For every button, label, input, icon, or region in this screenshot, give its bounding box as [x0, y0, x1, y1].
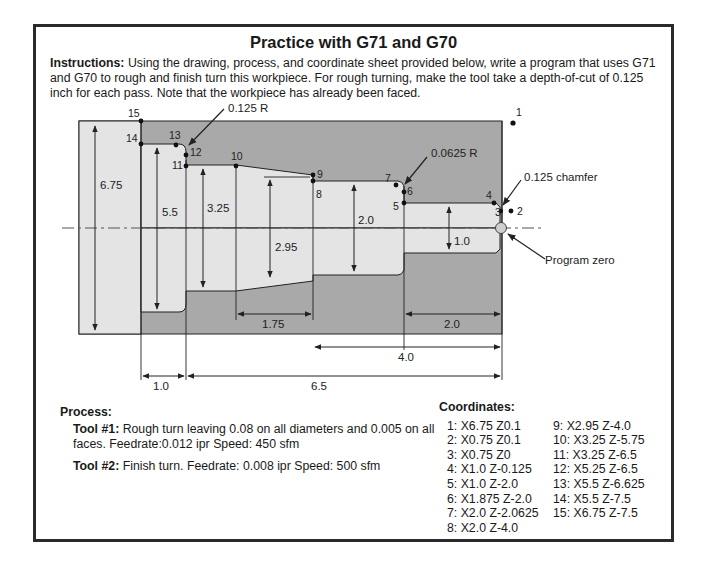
dim-2-95: 2.95	[275, 241, 297, 253]
coordinates-section: Coordinates: 1: X6.75 Z0.1 2: X0.75 Z0.1…	[439, 400, 645, 535]
coordinates-column-1: 1: X6.75 Z0.1 2: X0.75 Z0.1 3: X0.75 Z0 …	[447, 419, 553, 536]
point-label-1: 1	[516, 106, 522, 118]
process-header: Process:	[60, 405, 440, 420]
coordinate-row: 11: X3.25 Z-6.5	[553, 448, 645, 463]
tool-2-label: Tool #2:	[73, 459, 119, 473]
coordinate-row: 2: X0.75 Z0.1	[447, 433, 553, 448]
tool-1-text: Rough turn leaving 0.08 on all diameters…	[73, 422, 434, 451]
point-label-12: 12	[190, 146, 202, 158]
program-zero-marker	[496, 223, 507, 234]
dim-2-0: 2.0	[358, 214, 374, 226]
coordinate-row: 9: X2.95 Z-4.0	[553, 419, 645, 434]
dim-1-75: 1.75	[262, 318, 284, 330]
dim-2-0-length: 2.0	[444, 318, 460, 330]
dim-5-5: 5.5	[162, 206, 178, 218]
point-label-7: 7	[385, 172, 391, 184]
point-label-14: 14	[126, 132, 138, 144]
point-label-8: 8	[316, 188, 322, 200]
coordinate-row: 1: X6.75 Z0.1	[447, 419, 553, 434]
coordinate-row: 10: X3.25 Z-5.75	[553, 433, 645, 448]
coordinate-row: 7: X2.0 Z-2.0625	[447, 506, 553, 521]
process-section: Process: Tool #1: Rough turn leaving 0.0…	[60, 405, 440, 481]
dim-6-5: 6.5	[311, 380, 327, 392]
coordinate-row: 13: X5.5 Z-6.625	[553, 477, 645, 492]
tool-2-description: Tool #2: Finish turn. Feedrate: 0.008 ip…	[60, 459, 440, 474]
point-label-15: 15	[128, 107, 140, 119]
point-label-10: 10	[231, 150, 243, 162]
coordinate-row: 14: X5.5 Z-7.5	[553, 492, 645, 507]
coordinate-row: 6: X1.875 Z-2.0	[447, 492, 553, 507]
coordinates-column-2: 9: X2.95 Z-4.0 10: X3.25 Z-5.75 11: X3.2…	[553, 419, 645, 536]
coordinates-header: Coordinates:	[439, 400, 645, 415]
point-label-9: 9	[317, 168, 323, 180]
dim-4-0: 4.0	[398, 351, 414, 363]
coordinate-row: 15: X6.75 Z-7.5	[553, 506, 645, 521]
coordinate-row: 8: X2.0 Z-4.0	[447, 521, 553, 536]
callout-chamfer: 0.125 chamfer	[524, 171, 598, 183]
coordinate-row: 5: X1.0 Z-2.0	[447, 477, 553, 492]
coordinate-row: 4: X1.0 Z-0.125	[447, 462, 553, 477]
point-label-5: 5	[393, 200, 399, 212]
coordinate-row: 12: X5.25 Z-6.5	[553, 462, 645, 477]
dim-1-0-length: 1.0	[153, 380, 169, 392]
dim-3-25: 3.25	[207, 202, 229, 214]
callout-program-zero: Program zero	[545, 254, 615, 266]
dim-1-0: 1.0	[454, 235, 470, 247]
point-label-11: 11	[172, 159, 183, 171]
point-label-13: 13	[169, 129, 181, 141]
callout-radius-small: 0.0625 R	[431, 147, 478, 159]
tool-2-text: Finish turn. Feedrate: 0.008 ipr Speed: …	[119, 459, 380, 473]
tool-1-label: Tool #1:	[73, 422, 119, 436]
point-label-2: 2	[517, 205, 523, 217]
callout-radius-large: 0.125 R	[228, 102, 268, 114]
point-label-4: 4	[486, 189, 492, 201]
point-label-3: 3	[495, 206, 501, 218]
coordinate-row: 3: X0.75 Z0	[447, 448, 553, 463]
tool-1-description: Tool #1: Rough turn leaving 0.08 on all …	[60, 422, 440, 452]
point-label-6: 6	[407, 185, 413, 197]
dim-6-75: 6.75	[100, 179, 122, 191]
